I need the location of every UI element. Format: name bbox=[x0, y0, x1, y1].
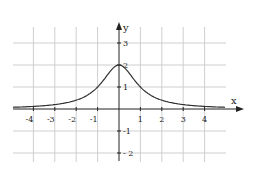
x-tick-label: -1 bbox=[90, 115, 98, 124]
y-tick-label: - 2 bbox=[123, 149, 133, 158]
x-axis-arrow-icon bbox=[236, 106, 244, 112]
y-tick-label: 1 bbox=[123, 83, 128, 92]
x-tick-label: -2 bbox=[68, 115, 76, 124]
x-tick-label: 3 bbox=[181, 115, 186, 124]
tick-labels: -4-3-2-11234- 2-1123 bbox=[26, 39, 208, 158]
function-plot: x y -4-3-2-11234- 2-1123 bbox=[0, 0, 255, 171]
x-tick-label: -3 bbox=[47, 115, 55, 124]
x-tick-label: 4 bbox=[202, 115, 207, 124]
y-tick-label: 3 bbox=[123, 39, 128, 48]
x-axis-label: x bbox=[231, 95, 237, 106]
x-tick-label: -4 bbox=[26, 115, 34, 124]
y-tick-label: -1 bbox=[123, 127, 131, 136]
x-tick-label: 2 bbox=[159, 115, 164, 124]
x-tick-label: 1 bbox=[138, 115, 143, 124]
y-axis-label: y bbox=[122, 22, 129, 33]
y-axis-arrow-icon bbox=[116, 22, 122, 30]
